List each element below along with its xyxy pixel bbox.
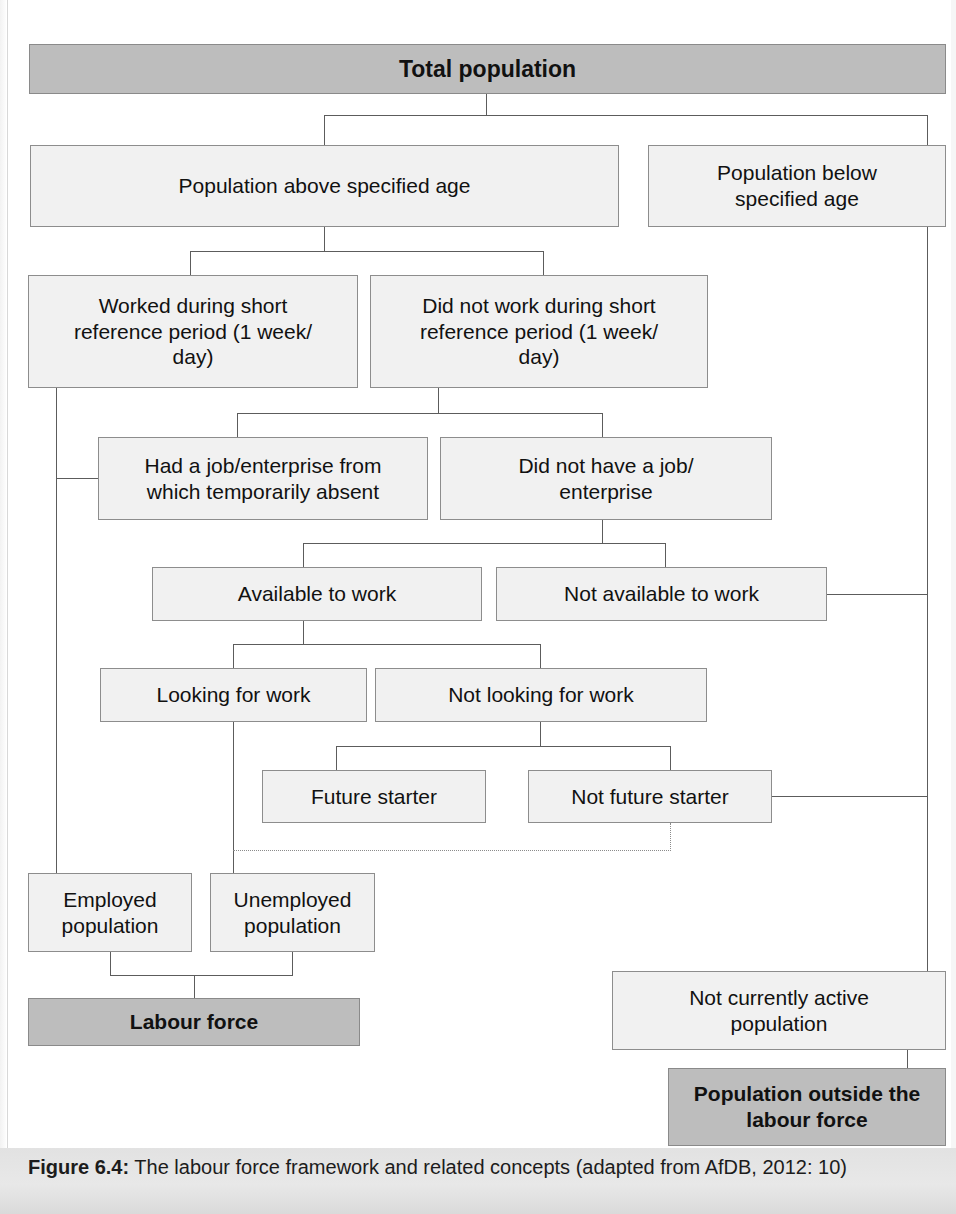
edge-to-not-looking (540, 644, 541, 668)
edge-to-labour-force (194, 975, 195, 999)
node-population-below-specified-age[interactable]: Population belowspecified age (648, 145, 946, 227)
edge-not-looking-down (540, 722, 541, 747)
edge-did-not-work-split-bar (237, 413, 603, 414)
edge-to-not-available (665, 543, 666, 567)
edge-did-not-work-down (438, 388, 439, 414)
edge-unemployed-down (292, 952, 293, 976)
edge-no-job-down (602, 520, 603, 544)
edge-not-future-starter-dotted-down (670, 823, 671, 851)
edge-below-age-spine (927, 227, 928, 972)
node-not-currently-active-population[interactable]: Not currently activepopulation (612, 971, 946, 1050)
edge-no-job-split-bar (303, 543, 666, 544)
edge-not-available-to-spine (827, 594, 928, 595)
labour-force-flowchart: Total population Population above specif… (0, 0, 956, 1148)
node-unemployed-population[interactable]: Unemployedpopulation (210, 873, 375, 952)
edge-to-did-not-work (543, 251, 544, 276)
edge-total-down (486, 93, 487, 116)
node-did-not-work-short-reference-period[interactable]: Did not work during shortreference perio… (370, 275, 708, 388)
edge-not-looking-split-bar (336, 746, 671, 747)
node-looking-for-work[interactable]: Looking for work (100, 668, 367, 722)
node-labour-force[interactable]: Labour force (28, 998, 360, 1046)
edge-to-not-future-starter (670, 746, 671, 770)
edge-to-had-job (237, 413, 238, 438)
node-total-population[interactable]: Total population (29, 44, 946, 94)
node-available-to-work[interactable]: Available to work (152, 567, 482, 621)
edge-above-age-down (324, 227, 325, 252)
edge-to-available (303, 543, 304, 567)
edge-not-future-starter-to-spine (772, 796, 928, 797)
node-did-not-have-job-enterprise[interactable]: Did not have a job/enterprise (440, 437, 772, 520)
node-not-available-to-work[interactable]: Not available to work (496, 567, 827, 621)
node-not-future-starter[interactable]: Not future starter (528, 770, 772, 823)
node-future-starter[interactable]: Future starter (262, 770, 486, 823)
node-not-looking-for-work[interactable]: Not looking for work (375, 668, 707, 722)
edge-total-split-bar (324, 115, 928, 116)
edge-above-age-split-bar (190, 251, 544, 252)
edge-to-below-age (927, 115, 928, 146)
edge-labour-force-merge-bar (110, 975, 293, 976)
edge-to-outside-labour-force (907, 1050, 908, 1068)
node-population-outside-labour-force[interactable]: Population outside thelabour force (668, 1068, 946, 1146)
figure-page: Total population Population above specif… (0, 0, 956, 1214)
figure-caption: Figure 6.4: The labour force framework a… (28, 1156, 928, 1179)
edge-employed-down (110, 952, 111, 976)
edge-to-above-age (324, 115, 325, 146)
edge-to-future-starter (336, 746, 337, 770)
edge-had-job-to-spine (56, 478, 99, 479)
edge-to-no-job (602, 413, 603, 438)
figure-caption-label: Figure 6.4: (28, 1156, 129, 1178)
node-employed-population[interactable]: Employedpopulation (28, 873, 192, 952)
edge-available-split-bar (233, 644, 541, 645)
figure-caption-body: The labour force framework and related c… (129, 1156, 847, 1178)
edge-available-down (303, 620, 304, 645)
node-worked-short-reference-period[interactable]: Worked during shortreference period (1 w… (28, 275, 358, 388)
node-had-job-temporarily-absent[interactable]: Had a job/enterprise fromwhich temporari… (98, 437, 428, 520)
node-population-above-specified-age[interactable]: Population above specified age (30, 145, 619, 227)
edge-worked-spine (56, 388, 57, 873)
edge-to-worked (190, 251, 191, 276)
edge-not-future-starter-dotted-left (233, 850, 671, 851)
edge-to-looking (233, 644, 234, 668)
